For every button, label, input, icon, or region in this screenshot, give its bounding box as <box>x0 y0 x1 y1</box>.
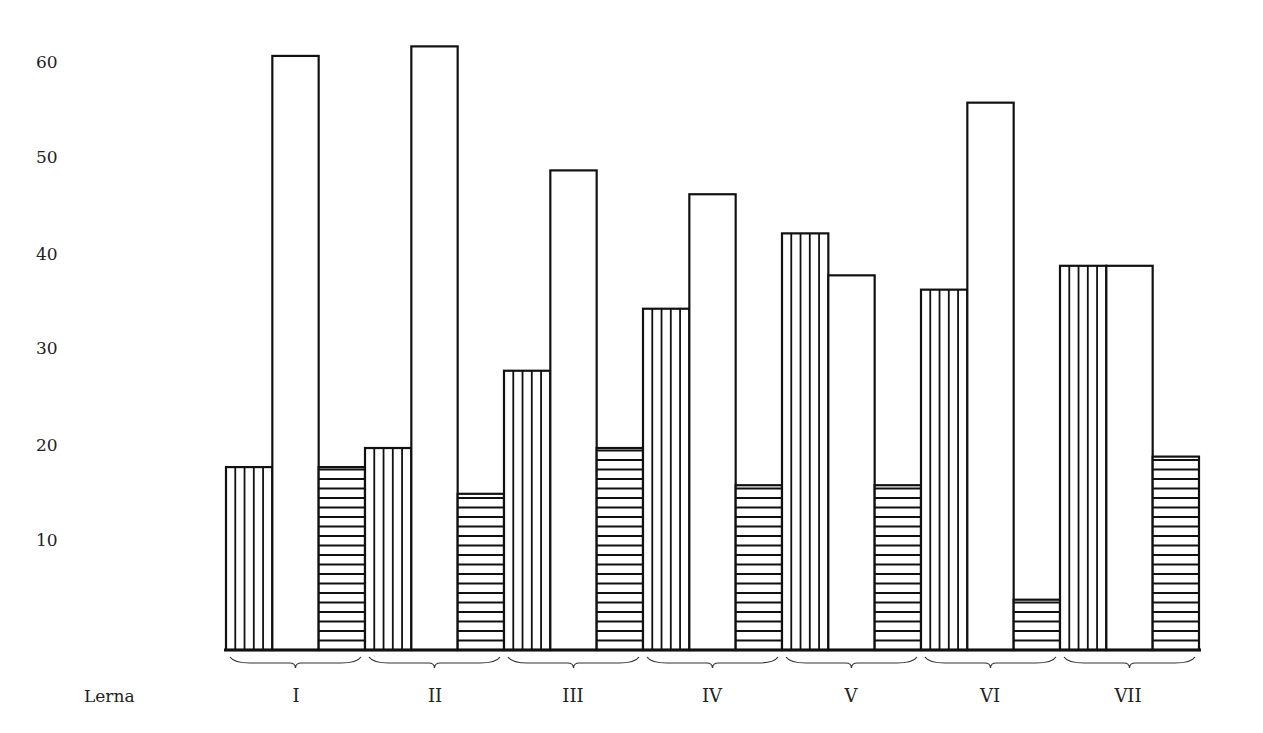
category-label-VI: VI <box>950 685 1030 706</box>
bar-white-VII <box>1106 266 1152 650</box>
group-brace-II <box>369 657 500 668</box>
category-label-V: V <box>811 685 891 706</box>
bar-chart <box>0 0 1263 733</box>
bar-white-II <box>411 46 457 650</box>
y-tick-10: 10 <box>36 530 96 550</box>
y-tick-50: 50 <box>36 147 96 167</box>
y-tick-40: 40 <box>36 244 96 264</box>
bar-vertical-hatched-VI <box>921 290 967 650</box>
y-tick-60: 60 <box>36 52 96 72</box>
bar-horizontal-hatched-I <box>319 467 365 650</box>
bar-white-VI <box>967 103 1013 650</box>
y-tick-20: 20 <box>36 435 96 455</box>
bar-white-III <box>550 170 596 650</box>
bar-vertical-hatched-V <box>782 233 828 650</box>
y-tick-30: 30 <box>36 338 96 358</box>
group-brace-IV <box>647 657 778 668</box>
bar-horizontal-hatched-V <box>875 485 921 650</box>
bar-white-V <box>828 275 874 650</box>
group-brace-III <box>508 657 639 668</box>
group-brace-VI <box>925 657 1056 668</box>
bar-vertical-hatched-III <box>504 371 550 650</box>
bar-white-IV <box>689 194 735 650</box>
group-brace-VII <box>1064 657 1195 668</box>
bar-vertical-hatched-II <box>365 448 411 650</box>
bar-vertical-hatched-VII <box>1060 266 1106 650</box>
group-brace-I <box>230 657 361 668</box>
category-label-I: I <box>256 685 336 706</box>
bar-horizontal-hatched-IV <box>736 485 782 650</box>
bar-vertical-hatched-IV <box>643 309 689 650</box>
bar-vertical-hatched-I <box>226 467 272 650</box>
bar-horizontal-hatched-VI <box>1014 600 1060 650</box>
category-label-III: III <box>533 685 613 706</box>
bar-white-I <box>272 56 318 650</box>
category-label-VII: VII <box>1088 685 1168 706</box>
group-brace-V <box>786 657 917 668</box>
category-label-II: II <box>395 685 475 706</box>
category-label-IV: IV <box>672 685 752 706</box>
x-axis-title: Lerna <box>84 686 135 706</box>
